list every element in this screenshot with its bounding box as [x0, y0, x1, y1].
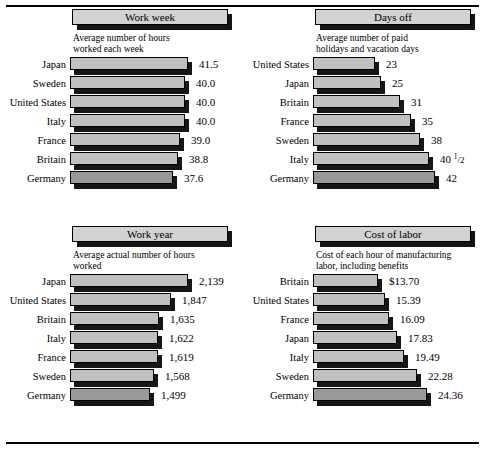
chart-rows: Britain$13.70United States15.39France16.…: [243, 274, 485, 407]
bar-sweden: [313, 133, 420, 146]
bar-area: 2,139: [70, 274, 242, 293]
chart-row: France1,619: [0, 350, 242, 369]
chart-row: United States15.39: [243, 293, 485, 312]
bar-area: 42: [313, 171, 485, 190]
chart-row: Britain1,635: [0, 312, 242, 331]
chart-row: Italy1,622: [0, 331, 242, 350]
category-label-france: France: [243, 114, 313, 128]
category-label-japan: Japan: [0, 274, 70, 288]
bar-united-states: [70, 293, 171, 306]
banner-face: Work year: [72, 226, 228, 242]
chart-title-banner: Cost of labor: [315, 226, 471, 245]
chart-panel-work-week: Work weekAverage number of hours worked …: [0, 9, 242, 225]
category-label-britain: Britain: [243, 274, 313, 288]
chart-row: Germany1,499: [0, 388, 242, 407]
bar-value-label: 38: [431, 133, 442, 147]
category-label-britain: Britain: [0, 312, 70, 326]
chart-subtitle: Cost of each hour of manufacturing labor…: [316, 250, 484, 271]
bar-germany: [70, 171, 173, 184]
category-label-japan: Japan: [0, 57, 70, 71]
bar-france: [70, 133, 180, 146]
chart-subtitle: Average number of paid holidays and vaca…: [316, 33, 484, 54]
bar-value-label: 25: [392, 76, 403, 90]
chart-title-label: Cost of labor: [364, 229, 421, 240]
bar-germany: [70, 388, 150, 401]
category-label-britain: Britain: [0, 152, 70, 166]
bar-united-states: [313, 293, 385, 306]
bar-value-label: 16.09: [400, 312, 425, 326]
bar-area: 15.39: [313, 293, 485, 312]
bar-area: 19.49: [313, 350, 485, 369]
banner-face: Work week: [72, 9, 228, 25]
bar-area: 40 1/2: [313, 152, 485, 171]
bar-value-label: 40.0: [196, 114, 215, 128]
bar-sweden: [313, 369, 417, 382]
bar-value-label: 35: [422, 114, 433, 128]
bar-france: [313, 312, 389, 325]
chart-row: United States40.0: [0, 95, 242, 114]
category-label-japan: Japan: [243, 76, 313, 90]
chart-row: Italy40 1/2: [243, 152, 485, 171]
chart-row: Germany37.6: [0, 171, 242, 190]
bar-area: 23: [313, 57, 485, 76]
bar-sweden: [70, 369, 154, 382]
bar-united-states: [70, 95, 185, 108]
bar-value-label: 40.0: [196, 76, 215, 90]
chart-row: Sweden38: [243, 133, 485, 152]
chart-row: France35: [243, 114, 485, 133]
bar-area: 39.0: [70, 133, 242, 152]
category-label-germany: Germany: [0, 171, 70, 185]
category-label-germany: Germany: [243, 388, 313, 402]
bar-britain: [313, 95, 400, 108]
bar-area: 17.83: [313, 331, 485, 350]
chart-row: Sweden22.28: [243, 369, 485, 388]
bar-germany: [313, 171, 435, 184]
bar-value-label: 38.8: [189, 152, 208, 166]
chart-row: United States23: [243, 57, 485, 76]
category-label-germany: Germany: [0, 388, 70, 402]
chart-title-banner: Days off: [315, 9, 471, 28]
bar-japan: [70, 57, 188, 70]
bar-area: $13.70: [313, 274, 485, 293]
category-label-italy: Italy: [243, 152, 313, 166]
bar-value-label: 2,139: [199, 274, 224, 288]
bottom-horizontal-rule: [6, 442, 479, 444]
bar-area: 38: [313, 133, 485, 152]
bar-area: 40.0: [70, 76, 242, 95]
chart-row: Sweden1,568: [0, 369, 242, 388]
bar-area: 41.5: [70, 57, 242, 76]
bar-value-label: 1,568: [165, 369, 190, 383]
bar-area: 31: [313, 95, 485, 114]
bar-italy: [313, 152, 429, 165]
bar-japan: [313, 331, 397, 344]
bar-value-label: 40.0: [196, 95, 215, 109]
bar-area: 1,635: [70, 312, 242, 331]
category-label-italy: Italy: [243, 350, 313, 364]
chart-row: Britain31: [243, 95, 485, 114]
chart-row: France16.09: [243, 312, 485, 331]
category-label-united-states: United States: [0, 293, 70, 307]
category-label-sweden: Sweden: [0, 369, 70, 383]
top-horizontal-rule: [6, 5, 479, 7]
bar-value-label: 1,847: [182, 293, 207, 307]
chart-rows: Japan41.5Sweden40.0United States40.0Ital…: [0, 57, 242, 190]
bar-value-label: 15.39: [396, 293, 421, 307]
bar-japan: [313, 76, 381, 89]
bar-value-label: 1,619: [169, 350, 194, 364]
bar-value-label: 1,622: [169, 331, 194, 345]
chart-subtitle: Average number of hours worked each week: [73, 33, 241, 54]
bar-value-label: $13.70: [389, 274, 419, 288]
bar-value-label: 22.28: [428, 369, 453, 383]
chart-row: France39.0: [0, 133, 242, 152]
clipped-page-header: [0, 0, 485, 1]
category-label-united-states: United States: [243, 293, 313, 307]
chart-row: Germany42: [243, 171, 485, 190]
bar-value-label: 37.6: [184, 171, 203, 185]
bar-value-label: 1,635: [170, 312, 195, 326]
chart-title-label: Days off: [374, 12, 412, 23]
bar-britain: [313, 274, 378, 287]
chart-row: Japan25: [243, 76, 485, 95]
bar-value-label: 42: [446, 171, 457, 185]
bar-value-label: 31: [411, 95, 422, 109]
chart-panel-cost-of-labor: Cost of laborCost of each hour of manufa…: [243, 226, 485, 442]
